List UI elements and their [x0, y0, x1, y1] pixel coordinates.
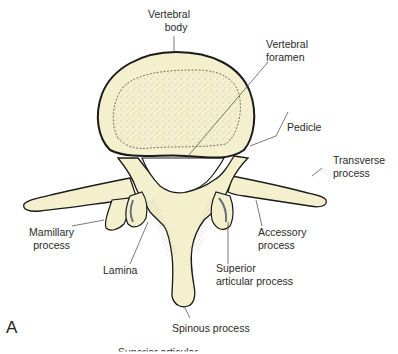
label-pedicle: Pedicle: [287, 121, 321, 134]
label-line-2: foramen: [266, 51, 308, 64]
label-line-2: process: [258, 239, 306, 252]
label-vertebral-body: Vertebral body: [148, 8, 190, 34]
label-vertebral-foramen: Vertebral foramen: [266, 38, 308, 64]
label-transverse-process: Transverse process: [333, 154, 385, 180]
right-superior-articular-process: [211, 192, 233, 229]
label-line-1: Superior: [216, 262, 293, 275]
label-line-2: articular process: [216, 275, 293, 288]
label-line-1: Vertebral: [148, 8, 190, 21]
label-spinous-process: Spinous process: [172, 322, 250, 335]
label-mamillary-process: Mamillary process: [22, 226, 74, 252]
label-line-1: Mamillary: [22, 226, 74, 239]
right-transverse-process: [228, 176, 326, 207]
label-line-2: process: [22, 239, 74, 252]
vertebra-diagram: Vertebral body Vertebral foramen Pedicle…: [0, 0, 398, 354]
label-accessory-process: Accessory process: [258, 226, 306, 252]
label-line-2: body: [148, 21, 190, 34]
label-line-1: Transverse: [333, 154, 385, 167]
label-line-1: Vertebral: [266, 38, 308, 51]
label-lamina: Lamina: [103, 264, 137, 277]
label-superior-articular-process: Superior articular process: [216, 262, 293, 288]
left-superior-articular-process: [126, 192, 147, 227]
label-line-1: Accessory: [258, 226, 306, 239]
panel-letter: A: [6, 318, 17, 338]
label-line-2: process: [333, 167, 385, 180]
